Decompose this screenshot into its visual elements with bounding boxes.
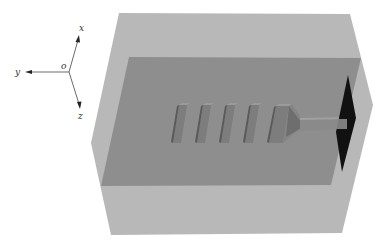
x-axis-line: [69, 40, 78, 72]
origin-label: o: [61, 61, 67, 71]
x-axis-label: x: [79, 23, 84, 33]
z-axis-line: [69, 72, 79, 104]
y-axis-label: y: [14, 67, 21, 77]
coordinate-axes: x y z o: [14, 23, 84, 121]
waveguide-end: [336, 119, 347, 129]
x-axis-arrow-icon: [76, 35, 81, 43]
diagram-canvas: x y z o: [0, 0, 388, 249]
z-axis-arrow-icon: [77, 102, 82, 110]
y-axis-arrow-icon: [25, 70, 32, 74]
z-axis-label: z: [77, 111, 83, 121]
